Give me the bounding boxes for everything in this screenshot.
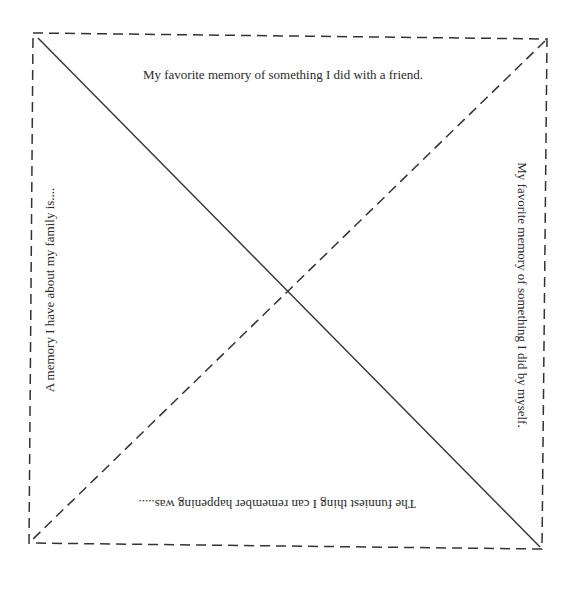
solid-diagonal-line xyxy=(38,38,540,547)
prompt-top: My favorite memory of something I did wi… xyxy=(128,67,438,83)
prompt-bottom: The funniest thing I can remember happen… xyxy=(112,496,442,512)
prompt-left: A memory I have about my family is.... xyxy=(42,135,58,445)
prompt-right: My favorite memory of something I did by… xyxy=(514,125,530,465)
dashed-diagonal-line xyxy=(31,41,545,541)
fold-template-sheet: My favorite memory of something I did wi… xyxy=(0,0,583,589)
